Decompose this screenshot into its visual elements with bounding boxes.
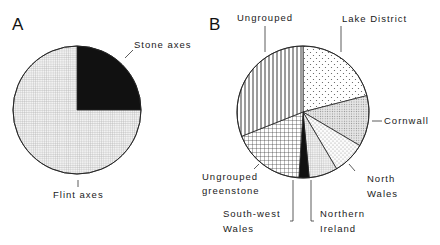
- pie-chart-a: [13, 46, 141, 174]
- northern-ireland-leader: [311, 180, 314, 221]
- label-north: North: [367, 173, 395, 184]
- label-ungrouped-greenstone-2: greenstone: [202, 185, 260, 196]
- label-ungrouped: Ungrouped: [237, 12, 293, 23]
- label-south-west: South-west: [223, 208, 281, 219]
- ungrouped-greenstone-leader: [254, 164, 259, 169]
- figure: A Stone axes Flint axes B Ungrouped Lake…: [0, 0, 440, 245]
- label-north-wales: Wales: [367, 188, 398, 199]
- pie-chart-b: [237, 46, 369, 178]
- label-lake-district: Lake District: [342, 13, 407, 24]
- label-ungrouped-greenstone-1: Ungrouped: [202, 171, 258, 182]
- label-northern-ireland: Ireland: [320, 223, 356, 234]
- label-south-west-wales: Wales: [223, 223, 254, 234]
- label-northern: Northern: [320, 208, 365, 219]
- north-wales-leader: [349, 164, 355, 171]
- south-west-wales-leader: [290, 180, 293, 221]
- panel-b-letter: B: [209, 15, 220, 34]
- stone-axes-leader: [125, 50, 133, 58]
- panel-a-letter: A: [12, 15, 24, 34]
- label-stone-axes: Stone axes: [134, 39, 192, 50]
- label-cornwall: Cornwall: [384, 115, 429, 126]
- label-flint-axes: Flint axes: [53, 189, 104, 200]
- pie-slice-stone-axes: [77, 46, 141, 110]
